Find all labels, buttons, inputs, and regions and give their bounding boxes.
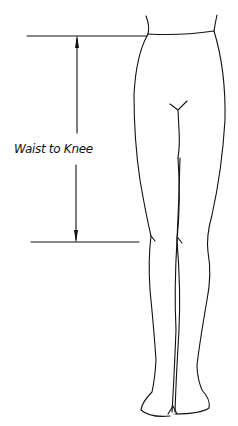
right-leg-outline bbox=[175, 31, 225, 414]
measurement-label: Waist to Knee bbox=[14, 142, 118, 156]
leg-figure-diagram bbox=[0, 0, 238, 426]
waistline bbox=[148, 31, 214, 35]
arrowhead-up-icon bbox=[75, 35, 79, 48]
left-leg-outline bbox=[134, 34, 170, 416]
crotch-mark bbox=[170, 101, 187, 158]
arrowhead-down-icon bbox=[74, 230, 78, 243]
